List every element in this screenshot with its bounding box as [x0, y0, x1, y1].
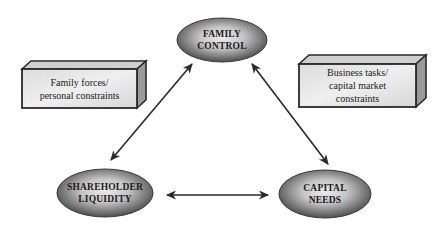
shareholder-liquidity-line1: SHAREHOLDER	[67, 181, 143, 193]
business-tasks-line1: Business tasks/	[327, 66, 388, 79]
box-top-face	[22, 61, 146, 69]
box-side-face	[137, 61, 146, 108]
business-tasks-line2: capital market	[329, 79, 386, 92]
family-control-line1: FAMILY	[203, 28, 241, 40]
family-forces-label: Family forces/ personal constraints	[22, 69, 137, 108]
business-tasks-label: Business tasks/ capital market constrain…	[299, 64, 416, 107]
box-side-face	[416, 55, 426, 107]
family-forces-line1: Family forces/	[50, 76, 108, 89]
box-top-face	[299, 55, 426, 64]
capital-needs-line1: CAPITAL	[303, 182, 346, 194]
business-tasks-line3: constraints	[336, 92, 379, 105]
family-forces-line2: personal constraints	[40, 89, 120, 102]
family-control-line2: CONTROL	[197, 40, 246, 52]
shareholder-liquidity-label: SHAREHOLDER LIQUIDITY	[57, 179, 153, 207]
capital-needs-label: CAPITAL NEEDS	[279, 180, 371, 208]
capital-needs-line2: NEEDS	[309, 194, 342, 206]
family-control-label: FAMILY CONTROL	[177, 26, 267, 54]
shareholder-liquidity-line2: LIQUIDITY	[78, 193, 132, 205]
